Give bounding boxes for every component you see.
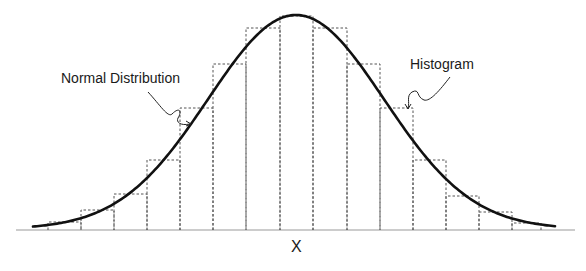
normal-annotation-arrow — [148, 92, 190, 125]
normal-distribution-label: Normal Distribution — [61, 70, 180, 86]
histogram-bar — [479, 212, 512, 230]
histogram-bar — [213, 64, 246, 230]
histogram-bar — [180, 108, 213, 230]
histogram-bar — [147, 160, 180, 230]
histogram-label: Histogram — [410, 56, 474, 72]
histogram-bar — [380, 108, 413, 230]
histogram-bar — [313, 28, 347, 230]
histogram-annotation-arrow — [408, 77, 450, 108]
histogram-bar — [246, 28, 280, 230]
histogram-bar — [280, 16, 313, 230]
x-axis-label: X — [291, 238, 302, 256]
normal-distribution-curve — [33, 15, 555, 227]
histogram-bar — [413, 160, 446, 230]
histogram-normal-figure — [0, 0, 586, 271]
histogram-bar — [347, 64, 380, 230]
